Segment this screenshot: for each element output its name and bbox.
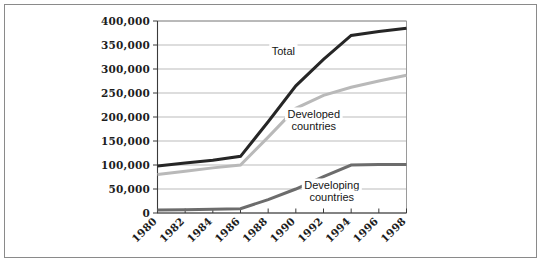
x-tick-label-1982: 1982: [157, 215, 187, 245]
x-tick-label-1998: 1998: [378, 215, 408, 245]
series-label-developed-countries-line1: Developed: [288, 108, 341, 120]
line-chart: 050,000100,000150,000200,000250,000300,0…: [0, 0, 541, 262]
x-tick-label-1994: 1994: [323, 215, 353, 245]
y-tick-label-50000: 50,000: [109, 183, 150, 195]
x-tick-label-1990: 1990: [268, 215, 298, 245]
y-axis-tick-marks: [153, 21, 158, 213]
x-tick-label-1996: 1996: [351, 215, 381, 245]
series-label-developing-countries-line1: Developing: [304, 179, 359, 191]
y-tick-label-250000: 250,000: [101, 87, 150, 99]
figure-container: 050,000100,000150,000200,000250,000300,0…: [0, 0, 541, 262]
y-tick-label-300000: 300,000: [101, 63, 150, 75]
y-tick-label-200000: 200,000: [101, 111, 150, 123]
y-tick-label-400000: 400,000: [101, 15, 150, 27]
y-tick-label-350000: 350,000: [101, 39, 150, 51]
y-tick-label-150000: 150,000: [101, 135, 150, 147]
y-tick-label-100000: 100,000: [101, 159, 150, 171]
series-line-developed-countries: [158, 75, 407, 174]
series-label-total: Total: [272, 45, 295, 57]
x-tick-label-1986: 1986: [212, 215, 242, 245]
x-tick-label-1984: 1984: [185, 215, 215, 245]
series-label-developing-countries-line2: countries: [309, 191, 354, 203]
series-label-developed-countries-line2: countries: [291, 120, 336, 132]
y-axis-tick-labels: 050,000100,000150,000200,000250,000300,0…: [101, 15, 150, 219]
x-tick-label-1992: 1992: [295, 215, 325, 245]
x-tick-label-1988: 1988: [240, 215, 270, 245]
x-axis-tick-labels: 1980198219841986198819901992199419961998: [129, 215, 408, 245]
x-tick-label-1980: 1980: [129, 215, 159, 245]
